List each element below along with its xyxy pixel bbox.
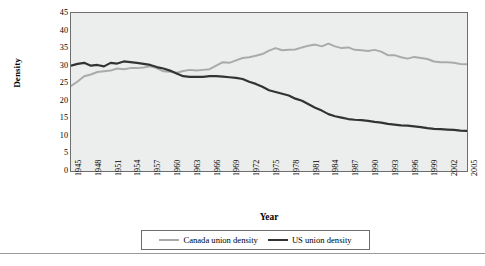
x-axis-title: Year: [70, 212, 468, 222]
y-tick-45: 45: [42, 9, 68, 17]
legend-swatch-us: [268, 239, 288, 241]
plot-area: [70, 12, 468, 172]
x-tick-1987: 1987: [351, 160, 360, 176]
x-tick-1975: 1975: [272, 160, 281, 176]
y-tick-5: 5: [42, 149, 68, 157]
y-tick-20: 20: [42, 97, 68, 105]
x-tick-1978: 1978: [292, 160, 301, 176]
x-tick-1960: 1960: [173, 160, 182, 176]
y-tick-0: 0: [42, 167, 68, 175]
y-tick-30: 30: [42, 62, 68, 70]
y-tick-25: 25: [42, 79, 68, 87]
union-density-chart: Density 051015202530354045 1945194819511…: [8, 6, 476, 224]
legend-label-us: US union density: [292, 235, 352, 245]
x-tick-1969: 1969: [232, 160, 241, 176]
x-tick-1996: 1996: [411, 160, 420, 176]
y-tick-40: 40: [42, 27, 68, 35]
legend-label-canada: Canada union density: [183, 235, 257, 245]
x-axis-tick-labels: 1945194819511954195719601963196619691972…: [70, 174, 470, 214]
legend-item-canada: Canada union density: [159, 235, 257, 245]
legend-swatch-canada: [159, 239, 179, 241]
x-tick-1972: 1972: [252, 160, 261, 176]
x-tick-1966: 1966: [213, 160, 222, 176]
x-tick-1984: 1984: [331, 160, 340, 176]
x-tick-1963: 1963: [193, 160, 202, 176]
x-tick-2002: 2002: [450, 160, 459, 176]
y-axis-title: Density: [12, 43, 22, 103]
chart-page: Density 051015202530354045 1945194819511…: [0, 0, 485, 266]
series-line-canada: [71, 44, 467, 86]
x-tick-1951: 1951: [114, 160, 123, 176]
x-tick-1954: 1954: [133, 160, 142, 176]
x-tick-1999: 1999: [430, 160, 439, 176]
series-line-us: [71, 61, 467, 131]
y-tick-10: 10: [42, 132, 68, 140]
x-tick-1948: 1948: [94, 160, 103, 176]
plot-lines: [71, 13, 467, 171]
y-axis-tick-labels: 051015202530354045: [36, 6, 68, 178]
x-tick-1957: 1957: [153, 160, 162, 176]
y-tick-15: 15: [42, 114, 68, 122]
footer-divider: [0, 253, 485, 254]
x-tick-1990: 1990: [371, 160, 380, 176]
y-tick-35: 35: [42, 44, 68, 52]
x-tick-1981: 1981: [312, 160, 321, 176]
x-tick-1945: 1945: [74, 160, 83, 176]
chart-legend: Canada union density US union density: [141, 230, 370, 250]
legend-item-us: US union density: [268, 235, 352, 245]
x-tick-2005: 2005: [470, 160, 479, 176]
x-tick-1993: 1993: [391, 160, 400, 176]
